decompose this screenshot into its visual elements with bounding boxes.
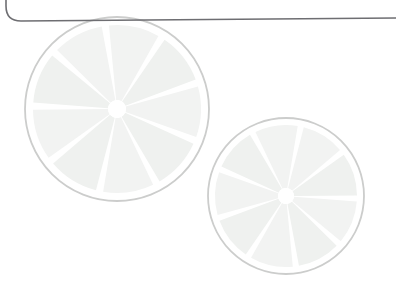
citrus-slice-large	[25, 17, 209, 201]
screenshot-canvas: Citrus slice decorative watermark	[0, 0, 396, 300]
citrus-watermark-illustration	[0, 0, 396, 300]
citrus-slice-small	[208, 118, 364, 274]
citrus-core	[108, 100, 126, 118]
citrus-core	[278, 188, 294, 204]
